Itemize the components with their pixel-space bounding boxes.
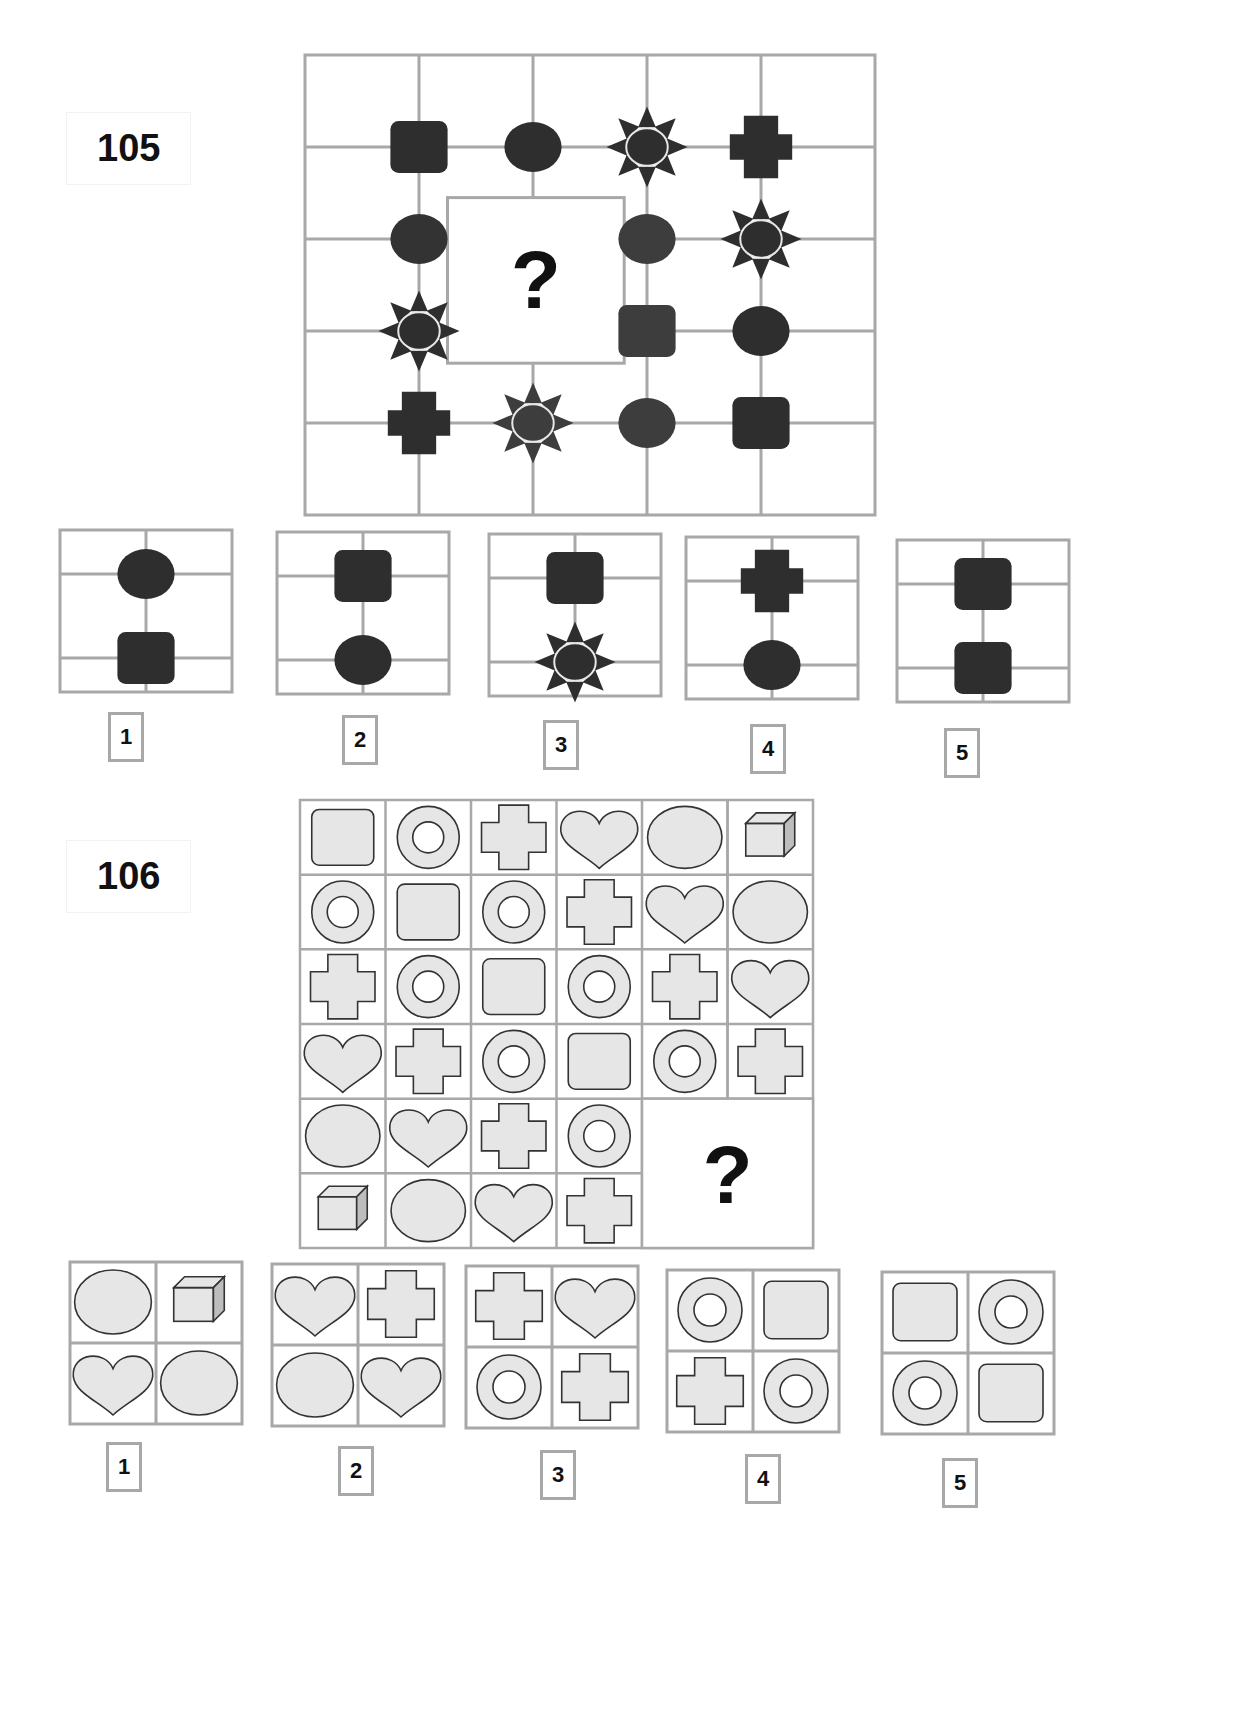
option-4-label[interactable]: 4 xyxy=(745,1454,781,1504)
ring-icon xyxy=(893,1361,957,1425)
option-2-label[interactable]: 2 xyxy=(338,1446,374,1496)
sun-icon xyxy=(720,198,801,279)
rounded-square-icon xyxy=(954,558,1011,610)
option-3-label[interactable]: 3 xyxy=(540,1450,576,1500)
cube-icon xyxy=(174,1277,225,1322)
ellipse-icon xyxy=(743,640,800,690)
option-3-button[interactable] xyxy=(489,534,661,696)
rounded-square-icon xyxy=(764,1281,828,1339)
puzzle-106-grid: ? xyxy=(300,800,815,1250)
rounded-square-icon xyxy=(893,1283,957,1341)
option-5-figure xyxy=(897,540,1069,702)
option-4-button[interactable] xyxy=(667,1270,839,1432)
option-3-figure xyxy=(489,534,661,696)
option-1-figure xyxy=(60,530,232,692)
option-3-figure xyxy=(466,1266,638,1428)
ellipse-icon xyxy=(334,635,391,685)
ring-icon xyxy=(568,1105,630,1167)
option-1-button[interactable] xyxy=(60,530,232,692)
option-5-label[interactable]: 5 xyxy=(944,728,980,778)
ring-icon xyxy=(397,806,459,868)
ring-icon xyxy=(483,1030,545,1092)
rounded-square-icon xyxy=(979,1364,1043,1422)
option-2-button[interactable] xyxy=(272,1264,444,1426)
rounded-square-icon xyxy=(334,550,391,602)
option-4-button[interactable] xyxy=(686,537,858,699)
cube-icon xyxy=(318,1186,367,1229)
option-1-figure xyxy=(70,1262,242,1424)
ellipse-icon xyxy=(732,306,789,356)
ellipse-icon xyxy=(504,122,561,172)
rounded-square-icon xyxy=(546,552,603,604)
rounded-square-icon xyxy=(618,305,675,357)
question-mark: ? xyxy=(511,234,561,325)
ring-icon xyxy=(568,956,630,1018)
ring-icon xyxy=(483,881,545,943)
rounded-square-icon xyxy=(117,632,174,684)
option-1-label[interactable]: 1 xyxy=(108,712,144,762)
ring-icon xyxy=(477,1355,541,1419)
option-1-button[interactable] xyxy=(70,1262,242,1424)
rounded-square-icon xyxy=(483,959,545,1015)
ellipse-icon xyxy=(117,549,174,599)
ellipse-icon xyxy=(391,1180,465,1242)
option-2-figure xyxy=(277,532,449,694)
option-5-button[interactable] xyxy=(882,1272,1054,1434)
rounded-square-icon xyxy=(568,1033,630,1089)
ring-icon xyxy=(764,1359,828,1423)
puzzle-number-106: 106 xyxy=(66,840,191,913)
cube-icon xyxy=(746,813,795,856)
rounded-square-icon xyxy=(397,884,459,940)
option-4-label[interactable]: 4 xyxy=(750,724,786,774)
ring-icon xyxy=(397,956,459,1018)
rounded-square-icon xyxy=(312,809,374,865)
ring-icon xyxy=(654,1030,716,1092)
ring-icon xyxy=(979,1280,1043,1344)
sun-icon xyxy=(378,290,459,371)
rounded-square-icon xyxy=(390,121,447,173)
option-3-label[interactable]: 3 xyxy=(543,720,579,770)
sun-icon xyxy=(606,106,687,187)
ellipse-icon xyxy=(277,1353,354,1417)
ellipse-icon xyxy=(618,214,675,264)
option-5-label[interactable]: 5 xyxy=(942,1458,978,1508)
rounded-square-icon xyxy=(732,397,789,449)
option-2-label[interactable]: 2 xyxy=(342,715,378,765)
sun-icon xyxy=(534,621,615,702)
ring-icon xyxy=(678,1278,742,1342)
option-2-button[interactable] xyxy=(277,532,449,694)
ellipse-icon xyxy=(75,1270,152,1334)
question-mark: ? xyxy=(702,1129,752,1220)
option-2-figure xyxy=(272,1264,444,1426)
option-4-figure xyxy=(686,537,858,699)
rounded-square-icon xyxy=(954,642,1011,694)
ring-icon xyxy=(312,881,374,943)
ellipse-icon xyxy=(618,398,675,448)
option-1-label[interactable]: 1 xyxy=(106,1442,142,1492)
option-5-figure xyxy=(882,1272,1054,1434)
ellipse-icon xyxy=(306,1105,380,1167)
puzzle-105-grid: ? xyxy=(305,55,880,520)
ellipse-icon xyxy=(161,1351,238,1415)
sun-icon xyxy=(492,382,573,463)
ellipse-icon xyxy=(648,806,722,868)
puzzle-number-105: 105 xyxy=(66,112,191,185)
option-3-button[interactable] xyxy=(466,1266,638,1428)
ellipse-icon xyxy=(733,881,807,943)
ellipse-icon xyxy=(390,214,447,264)
option-4-figure xyxy=(667,1270,839,1432)
option-5-button[interactable] xyxy=(897,540,1069,702)
